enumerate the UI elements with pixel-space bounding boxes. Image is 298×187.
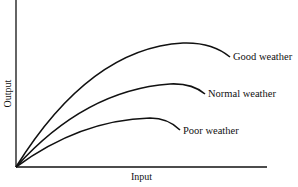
y-axis-label: Output <box>2 80 13 108</box>
x-axis-label: Input <box>131 171 152 182</box>
label-poor-weather: Poor weather <box>183 125 239 136</box>
label-good-weather: Good weather <box>233 51 292 62</box>
label-normal-weather: Normal weather <box>208 88 276 99</box>
chart: Good weather Normal weather Poor weather… <box>0 0 298 187</box>
curve-good-weather <box>16 43 230 167</box>
